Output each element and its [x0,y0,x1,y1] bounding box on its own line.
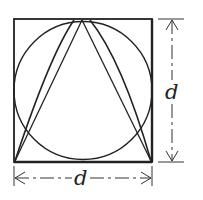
right-arc [90,20,151,161]
left-arc [15,20,74,161]
right-straight-line [82,20,151,161]
vertical-dimension-label: d [165,80,178,104]
left-straight-line [15,20,82,161]
geometry-diagram: d d [0,0,203,200]
inscribed-circle [14,22,152,160]
horizontal-dimension-label: d [74,166,87,190]
